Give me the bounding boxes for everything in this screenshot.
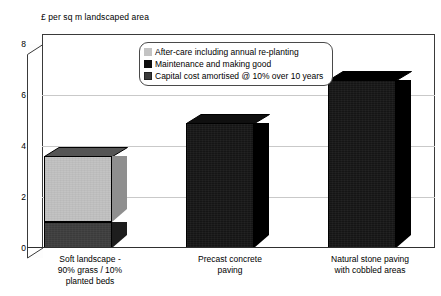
legend-item-after-care[interactable]: After-care including annual re-planting	[144, 46, 327, 58]
x-label-line: Natural stone paving	[300, 254, 440, 265]
column-precast-concrete	[186, 114, 254, 248]
texture	[329, 81, 395, 247]
x-label-precast-concrete: Precast concrete paving	[160, 254, 300, 276]
y-tick-0: 0	[6, 244, 26, 253]
legend-swatch-icon-after-care	[144, 48, 152, 56]
legend-swatch-icon-maintenance	[144, 60, 152, 68]
x-label-line: paving	[160, 265, 300, 276]
bar-segment-after-care-soft	[44, 156, 112, 222]
legend-label-after-care: After-care including annual re-planting	[155, 47, 299, 57]
legend: After-care including annual re-planting …	[139, 42, 333, 86]
x-label-line: Precast concrete	[160, 254, 300, 265]
column-chart: £ per sq m landscaped area 8 6 4 2 0	[0, 0, 441, 296]
legend-label-capital-cost: Capital cost amortised @ 10% over 10 yea…	[155, 71, 323, 81]
texture	[45, 157, 111, 221]
legend-label-maintenance: Maintenance and making good	[155, 59, 271, 69]
x-label-line: planted beds	[20, 276, 160, 287]
texture	[187, 124, 253, 247]
x-label-line: with cobbled areas	[300, 265, 440, 276]
bar-side-capital-precast	[254, 123, 269, 248]
bar-segment-capital-soft	[44, 222, 112, 248]
x-label-soft-landscape: Soft landscape - 90% grass / 10% planted…	[20, 254, 160, 287]
y-axis-title: £ per sq m landscaped area	[41, 12, 149, 22]
bar-segment-capital-precast	[186, 123, 254, 248]
column-natural-stone	[328, 71, 396, 248]
plot-left-wall	[27, 44, 43, 258]
y-tick-8: 8	[6, 40, 26, 49]
axis-baseline	[27, 247, 435, 248]
texture	[45, 223, 111, 247]
legend-swatch-icon-capital-cost	[144, 72, 152, 80]
x-label-natural-stone: Natural stone paving with cobbled areas	[300, 254, 440, 276]
bar-side-capital-natural	[396, 80, 411, 248]
bar-segment-capital-natural	[328, 80, 396, 248]
y-tick-6: 6	[6, 91, 26, 100]
legend-item-capital-cost[interactable]: Capital cost amortised @ 10% over 10 yea…	[144, 70, 327, 82]
x-label-line: Soft landscape -	[20, 254, 160, 265]
y-tick-4: 4	[6, 142, 26, 151]
legend-item-maintenance[interactable]: Maintenance and making good	[144, 58, 327, 70]
y-tick-2: 2	[6, 193, 26, 202]
column-soft-landscape	[44, 147, 112, 248]
x-label-line: 90% grass / 10%	[20, 265, 160, 276]
